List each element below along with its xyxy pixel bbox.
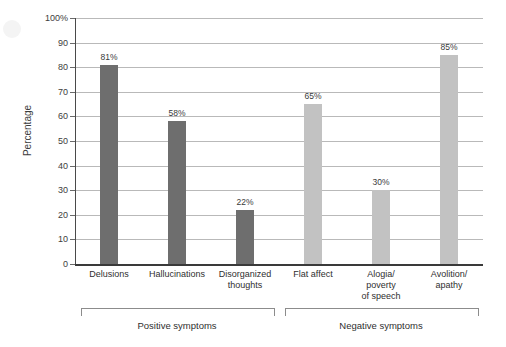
y-axis-tick	[70, 116, 75, 117]
y-axis-tick-label: 40	[28, 161, 68, 171]
y-axis-tick	[70, 67, 75, 68]
y-axis-tick	[70, 141, 75, 142]
bar-value-label: 65%	[290, 91, 336, 101]
y-axis-tick	[70, 18, 75, 19]
bar	[100, 65, 118, 264]
y-axis-tick-label: 50	[28, 136, 68, 146]
y-axis-tick	[70, 190, 75, 191]
group-label: Positive symptoms	[137, 320, 216, 331]
y-axis-tick-label: 10	[28, 234, 68, 244]
y-axis-tick-label: 90	[28, 38, 68, 48]
bar-value-label: 22%	[222, 197, 268, 207]
bar	[440, 55, 458, 264]
bar-value-label: 30%	[358, 177, 404, 187]
y-axis-tick-label: 0	[28, 259, 68, 269]
category-label: Disorganizedthoughts	[207, 269, 283, 291]
y-axis-tick	[70, 43, 75, 44]
y-axis-tick-label: 70	[28, 87, 68, 97]
bar-chart: Percentage 100%9080706050403020100 81%58…	[0, 0, 506, 347]
bar	[304, 104, 322, 264]
scan-artifact	[3, 20, 21, 38]
y-axis-tick	[70, 215, 75, 216]
y-axis-tick-label: 80	[28, 62, 68, 72]
y-axis-tick	[70, 264, 75, 265]
category-label: Hallucinations	[139, 269, 215, 280]
category-label: Flat affect	[275, 269, 351, 280]
group-bracket	[81, 308, 275, 316]
bar	[236, 210, 254, 264]
bar	[168, 121, 186, 264]
y-axis-tick-label: 60	[28, 111, 68, 121]
bar	[372, 190, 390, 264]
y-axis-tick-label: 20	[28, 210, 68, 220]
y-axis-tick	[70, 239, 75, 240]
bars-layer	[75, 18, 483, 264]
bar-value-label: 58%	[154, 108, 200, 118]
category-label: Alogia/povertyof speech	[343, 269, 419, 302]
y-axis-tick-label: 100%	[28, 13, 68, 23]
y-axis-tick	[70, 92, 75, 93]
x-axis-line	[75, 264, 483, 266]
group-label: Negative symptoms	[339, 320, 422, 331]
category-label: Delusions	[71, 269, 147, 280]
category-label: Avolition/apathy	[411, 269, 487, 291]
group-bracket	[285, 308, 479, 316]
y-axis-tick	[70, 166, 75, 167]
bar-value-label: 81%	[86, 52, 132, 62]
y-axis-tick-labels: 100%9080706050403020100	[24, 0, 68, 347]
y-axis-tick-label: 30	[28, 185, 68, 195]
bar-value-label: 85%	[426, 42, 472, 52]
